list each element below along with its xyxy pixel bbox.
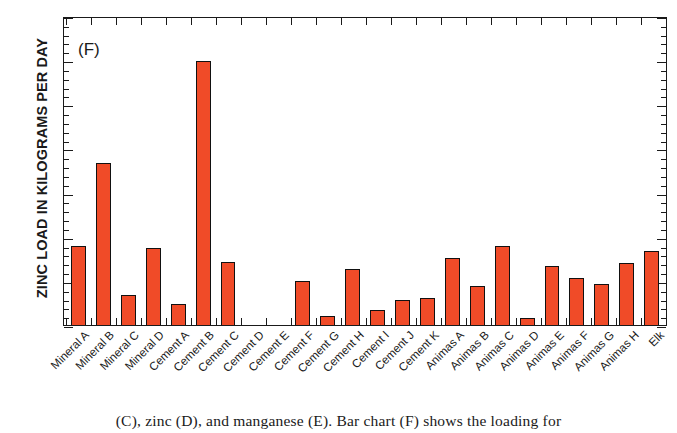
bar-slot bbox=[540, 18, 565, 325]
bar bbox=[71, 246, 86, 325]
bar-slot bbox=[365, 18, 390, 325]
plot-area: (F) 010203040506070 bbox=[63, 17, 667, 326]
bar-slot bbox=[515, 18, 540, 325]
figure-caption: (C), zinc (D), and manganese (E). Bar ch… bbox=[0, 412, 677, 430]
bar bbox=[196, 61, 211, 325]
bar-slot bbox=[589, 18, 614, 325]
bar-slot bbox=[66, 18, 91, 325]
bar-slot bbox=[564, 18, 589, 325]
bar-slot bbox=[116, 18, 141, 325]
bar-slot bbox=[265, 18, 290, 325]
bar-slot bbox=[490, 18, 515, 325]
bar-slot bbox=[340, 18, 365, 325]
y-axis-title: ZINC LOAD IN KILOGRAMS PER DAY bbox=[34, 0, 50, 338]
bar-slot bbox=[465, 18, 490, 325]
bar-slot bbox=[440, 18, 465, 325]
figure-panel-f: ZINC LOAD IN KILOGRAMS PER DAY (F) 01020… bbox=[0, 0, 677, 433]
bar-slot bbox=[166, 18, 191, 325]
x-axis-category-labels: Mineral AMineral BMineral CMineral DCeme… bbox=[63, 328, 667, 406]
bar-slot bbox=[240, 18, 265, 325]
bar-slot bbox=[315, 18, 340, 325]
bar-slot bbox=[614, 18, 639, 325]
bar-slot bbox=[639, 18, 664, 325]
bar-slot bbox=[216, 18, 241, 325]
bar-slot bbox=[141, 18, 166, 325]
bar-slot bbox=[390, 18, 415, 325]
bar-slot bbox=[415, 18, 440, 325]
x-tick-top bbox=[666, 18, 667, 25]
bar-slot bbox=[191, 18, 216, 325]
bar-slot bbox=[290, 18, 315, 325]
bar-slot bbox=[91, 18, 116, 325]
bar-series bbox=[64, 18, 666, 325]
